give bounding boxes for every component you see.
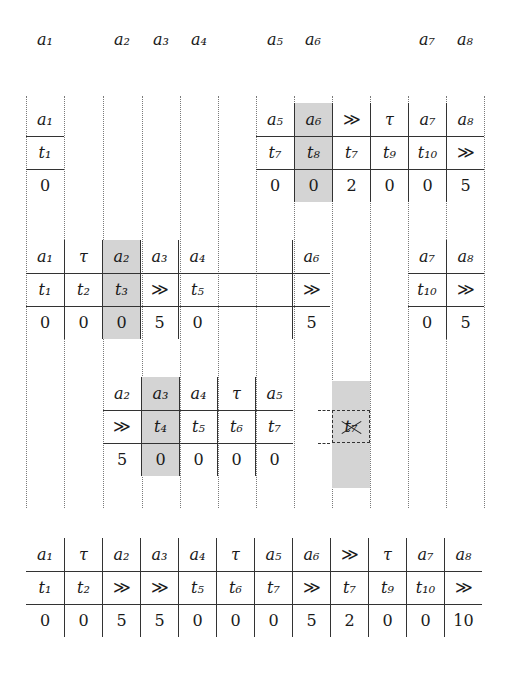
block-1-seg2-token-cell-2: t₈ [294, 136, 332, 169]
summary-value-cell-9: 2 [330, 604, 368, 637]
block-1-seg2-token-cell-1: t₇ [256, 136, 294, 169]
block-2-seg2-align-cell-1: a₇ [408, 240, 446, 273]
block-2-seg1-token-cell-3: t₃ [102, 273, 140, 306]
summary-align-cell-12: a₈ [444, 538, 482, 571]
block-3-seg1-align-cell-1: a₂ [103, 377, 141, 410]
block-1-seg1-align-cell-1: a₁ [26, 103, 64, 136]
summary-token-cell-10: t₉ [368, 571, 406, 604]
summary-value-cell-6: 0 [216, 604, 254, 637]
block-1-seg2-rule-1 [256, 136, 484, 137]
summary-token-cell-7: t₇ [254, 571, 292, 604]
block-3-removed-token-box: t₇ [332, 410, 370, 443]
block-2-seg1-align-cell-6 [216, 240, 254, 273]
top-label-a1: a₁ [26, 32, 64, 48]
block-1-seg1-rule-1 [26, 136, 64, 137]
block-2-seg1-value-cell-7 [254, 306, 292, 339]
summary-token-cell-1: t₁ [26, 571, 64, 604]
summary-token-cell-4: ≫ [140, 571, 178, 604]
block-1-seg1-token-cell-1: t₁ [26, 136, 64, 169]
block-1-seg2-align-cell-2: a₆ [294, 103, 332, 136]
top-label-a2: a₂ [103, 32, 141, 48]
block-3-seg1-token-cell-5: t₇ [255, 410, 293, 443]
summary-align-cell-7: a₅ [254, 538, 292, 571]
summary-align-cell-1: a₁ [26, 538, 64, 571]
block-2-seg1-align-cell-5: a₄ [178, 240, 216, 273]
block-2-seg1-token-cell-4: ≫ [140, 273, 178, 306]
block-3-seg1-value-cell-3: 0 [179, 443, 217, 476]
block-2-seg1-token-cell-1: t₁ [26, 273, 64, 306]
summary-value-cell-10: 0 [368, 604, 406, 637]
block-2-seg2-token-cell-2: ≫ [446, 273, 484, 306]
block-3-dash-tick-1 [318, 410, 330, 411]
block-3-seg1-align-cell-5: a₅ [255, 377, 293, 410]
block-3-removed-token-label: t₇ [345, 417, 358, 436]
summary-align-cell-3: a₂ [102, 538, 140, 571]
block-3-dash-tick-2 [318, 443, 330, 444]
block-1-seg2-rule-2 [256, 169, 484, 170]
block-3-seg1-rule-2 [103, 443, 293, 444]
block-1-seg2-value-cell-3: 2 [332, 169, 370, 202]
block-3-seg1-align-cell-3: a₄ [179, 377, 217, 410]
block-2-seg1-rule-2 [26, 306, 330, 307]
block-2-seg2-rule-1 [408, 273, 484, 274]
block-2-seg1-align-cell-1: a₁ [26, 240, 64, 273]
block-1-seg1-rule-2 [26, 169, 64, 170]
block-2-seg1-token-cell-6 [216, 273, 254, 306]
block-2-seg1-value-cell-2: 0 [64, 306, 102, 339]
block-1-seg2-value-cell-2: 0 [294, 169, 332, 202]
block-2-seg1-value-cell-8: 5 [292, 306, 330, 339]
block-1-seg2-align-cell-5: a₇ [408, 103, 446, 136]
block-1-seg2-value-cell-6: 5 [446, 169, 484, 202]
block-2-seg2-align-cell-2: a₈ [446, 240, 484, 273]
block-1-seg2-token-cell-4: t₉ [370, 136, 408, 169]
block-2-seg1-token-cell-8: ≫ [292, 273, 330, 306]
block-2-seg1-align-cell-4: a₃ [140, 240, 178, 273]
block-2-seg1-value-cell-6 [216, 306, 254, 339]
block-2-seg1-value-cell-3: 0 [102, 306, 140, 339]
block-2-seg1-token-cell-7 [254, 273, 292, 306]
block-2-seg1-token-cell-2: t₂ [64, 273, 102, 306]
block-1-seg2-align-cell-1: a₅ [256, 103, 294, 136]
block-1-seg2-value-cell-4: 0 [370, 169, 408, 202]
summary-value-cell-1: 0 [26, 604, 64, 637]
block-1-seg2-value-cell-1: 0 [256, 169, 294, 202]
summary-token-cell-12: ≫ [444, 571, 482, 604]
block-1-seg2-token-cell-6: ≫ [446, 136, 484, 169]
summary-align-cell-5: a₄ [178, 538, 216, 571]
summary-rule-1 [26, 571, 482, 572]
block-3-seg1-token-cell-2: t₄ [141, 410, 179, 443]
block-2-seg2-token-cell-1: t₁₀ [408, 273, 446, 306]
block-3-seg1-token-cell-3: t₅ [179, 410, 217, 443]
block-3-seg1-align-cell-4: τ [217, 377, 255, 410]
top-label-a5: a₅ [256, 32, 294, 48]
top-label-a4: a₄ [180, 32, 218, 48]
block-3-seg1-value-cell-2: 0 [141, 443, 179, 476]
alignment-figure: a₁a₂a₃a₄a₅a₆a₇a₈a₁t₁0a₅a₆≫τa₇a₈t₇t₈t₇t₉t… [0, 0, 507, 683]
column-guide-13 [484, 96, 485, 508]
block-2-seg1-value-cell-4: 5 [140, 306, 178, 339]
block-1-seg2-align-cell-6: a₈ [446, 103, 484, 136]
block-2-seg1-align-cell-2: τ [64, 240, 102, 273]
top-label-a6: a₆ [294, 32, 332, 48]
summary-align-cell-11: a₇ [406, 538, 444, 571]
summary-value-cell-2: 0 [64, 604, 102, 637]
summary-token-cell-9: t₇ [330, 571, 368, 604]
summary-value-cell-5: 0 [178, 604, 216, 637]
top-label-a8: a₈ [446, 32, 484, 48]
block-2-seg2-rule-2 [408, 306, 484, 307]
summary-align-cell-8: a₆ [292, 538, 330, 571]
block-2-seg1-align-cell-7 [254, 240, 292, 273]
summary-rule-2 [26, 604, 482, 605]
block-1-seg2-value-cell-5: 0 [408, 169, 446, 202]
summary-token-cell-11: t₁₀ [406, 571, 444, 604]
block-1-seg2-align-cell-4: τ [370, 103, 408, 136]
summary-align-cell-6: τ [216, 538, 254, 571]
summary-token-cell-2: t₂ [64, 571, 102, 604]
block-3-seg1-value-cell-5: 0 [255, 443, 293, 476]
summary-align-cell-10: τ [368, 538, 406, 571]
block-2-seg1-align-cell-3: a₂ [102, 240, 140, 273]
summary-align-cell-2: τ [64, 538, 102, 571]
block-2-seg1-rule-1 [26, 273, 330, 274]
summary-value-cell-4: 5 [140, 604, 178, 637]
block-2-seg1-token-cell-5: t₅ [178, 273, 216, 306]
